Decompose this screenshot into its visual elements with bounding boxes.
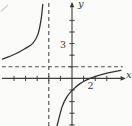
plot-canvas [0, 0, 132, 126]
x-axis-label: x [126, 70, 132, 80]
y-axis-arrowhead [70, 2, 75, 7]
y-tick-label-3: 3 [57, 40, 66, 50]
curve-left-branch [2, 5, 42, 60]
stray-ink-mark [1, 5, 8, 12]
x-tick-label-2: 2 [86, 81, 95, 91]
y-axis-label: y [78, 0, 84, 9]
function-graph-figure: y x 3 2 [0, 0, 132, 126]
